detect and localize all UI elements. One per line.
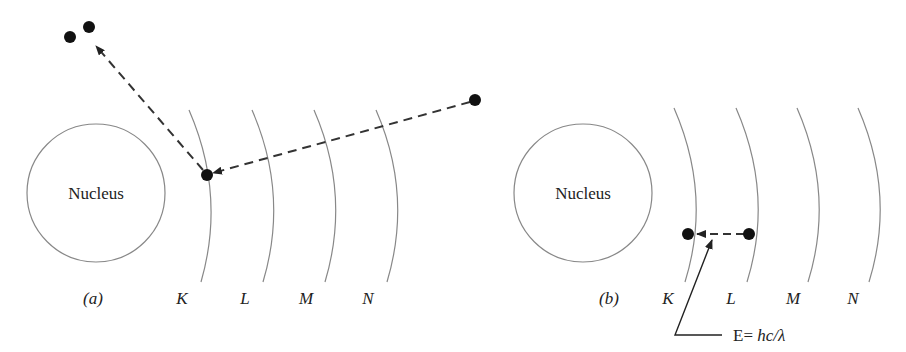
shell-l-arc xyxy=(252,110,274,282)
shell-n-arc xyxy=(376,110,398,282)
shell-n-label: N xyxy=(361,289,375,308)
shell-k-arc xyxy=(189,110,211,282)
incoming-particle-path xyxy=(213,102,470,173)
electron-l-shell xyxy=(743,228,755,240)
shell-k-label: K xyxy=(661,289,675,308)
incoming-particle xyxy=(469,94,481,106)
panel-a: Nucleus (a) K L M N xyxy=(27,21,481,308)
ejected-electron-2 xyxy=(83,21,95,33)
shell-k-arc xyxy=(674,108,696,282)
shell-l-arc xyxy=(736,108,758,282)
ejected-electron-1 xyxy=(64,31,76,43)
shell-m-label: M xyxy=(298,289,314,308)
shell-n-label: N xyxy=(846,289,860,308)
shell-l-label: L xyxy=(239,289,249,308)
nucleus-label: Nucleus xyxy=(555,184,611,203)
shell-n-arc xyxy=(858,108,880,282)
shell-m-arc xyxy=(314,110,336,282)
photon-pointer-line xyxy=(675,240,722,335)
shell-m-arc xyxy=(797,108,819,282)
photon-energy-prefix: E= xyxy=(733,326,757,345)
panel-a-caption: (a) xyxy=(83,289,103,308)
panel-b-caption: (b) xyxy=(599,289,619,308)
photon-energy-label: E= hc/λ xyxy=(733,326,785,345)
shell-l-label: L xyxy=(725,289,735,308)
electron-k-shell xyxy=(682,228,694,240)
electron-k-shell xyxy=(201,169,213,181)
nucleus-label: Nucleus xyxy=(68,184,124,203)
ejected-electron-path xyxy=(96,46,203,170)
shell-k-label: K xyxy=(175,289,189,308)
photon-energy-formula: hc/λ xyxy=(757,326,785,345)
atomic-diagram: Nucleus (a) K L M N Nucleus E= hc/λ (b) xyxy=(0,0,906,352)
panel-b: Nucleus E= hc/λ (b) K L M N xyxy=(514,108,880,345)
shell-m-label: M xyxy=(785,289,801,308)
